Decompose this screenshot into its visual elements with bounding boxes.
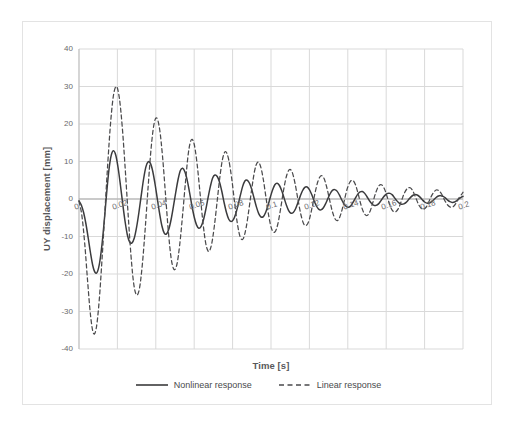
y-tick-label: -40 [45, 344, 73, 353]
x-axis-title: Time [s] [79, 360, 463, 371]
legend-swatch-solid-icon [135, 380, 169, 390]
y-tick-label: -20 [45, 269, 73, 278]
y-tick-label: 20 [45, 119, 73, 128]
chart-plot-area [23, 22, 493, 406]
y-tick-label: 30 [45, 82, 73, 91]
y-axis-title: UY displacement [mm] [41, 147, 52, 251]
y-tick-label: 40 [45, 44, 73, 53]
y-tick-label: -30 [45, 307, 73, 316]
legend-item-nonlinear[interactable]: Nonlinear response [135, 380, 252, 390]
chart-legend: Nonlinear response Linear response [23, 380, 493, 390]
chart-frame: 403020100-10-20-30-40 00.020.040.060.080… [22, 21, 492, 405]
legend-item-linear[interactable]: Linear response [278, 380, 382, 390]
legend-label-nonlinear: Nonlinear response [174, 380, 252, 390]
legend-label-linear: Linear response [317, 380, 382, 390]
legend-swatch-dashed-icon [278, 380, 312, 390]
